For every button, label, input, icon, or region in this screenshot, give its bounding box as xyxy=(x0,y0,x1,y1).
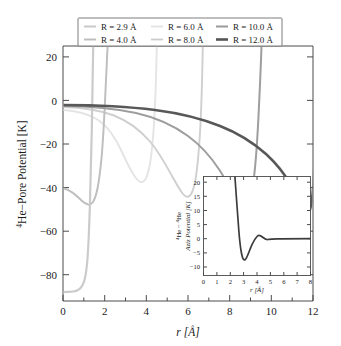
inset-y-tick-label: 15 xyxy=(193,193,200,200)
y-tick-label: −20 xyxy=(40,138,58,150)
y-tick-label: −60 xyxy=(40,225,58,237)
legend-label: R = 6.0 Å xyxy=(168,22,204,32)
inset-x-tick-label: 1 xyxy=(215,278,218,285)
x-axis-label: r [Å] xyxy=(176,325,199,338)
legend-label: R = 12.0 Å xyxy=(233,35,274,45)
legend-label: R = 2.9 Å xyxy=(101,22,137,32)
x-tick-label: 6 xyxy=(185,305,191,317)
inset-y-axis-label-line1: 4He − 4He xyxy=(175,212,183,240)
x-tick-labels: 0 2 4 6 8 10 12 xyxy=(60,305,318,317)
potential-figure: 0 2 4 6 8 10 12 20 0 −20 −40 xyxy=(0,0,341,346)
y-tick-label: −40 xyxy=(40,182,58,194)
y-tick-labels: 20 0 −20 −40 −60 −80 xyxy=(40,51,58,281)
inset-x-axis-label: r [Å] xyxy=(250,286,264,294)
y-axis-label: 4He−Pore Potential [K] xyxy=(15,120,28,227)
inset-ylabel-b: He xyxy=(175,212,182,220)
inset-y-axis-label-line2: Aziz Potential [K] xyxy=(184,201,192,252)
x-tick-label: 4 xyxy=(144,305,150,317)
y-axis-label-group: 4He−Pore Potential [K] xyxy=(15,120,28,227)
inset-ylabel-a: He − xyxy=(175,222,182,237)
y-tick-label: 0 xyxy=(52,95,58,107)
x-tick-label: 8 xyxy=(227,305,233,317)
x-tick-label: 12 xyxy=(308,305,319,317)
figure-container: 0 2 4 6 8 10 12 20 0 −20 −40 xyxy=(0,0,341,346)
inset-x-tick-labels: 0 1 2 3 4 5 6 7 8 xyxy=(202,278,313,285)
inset-y-tick-label: 10 xyxy=(193,207,200,214)
x-tick-label: 2 xyxy=(102,305,108,317)
legend-label: R = 10.0 Å xyxy=(233,22,274,32)
inset-y-tick-label: 20 xyxy=(193,179,200,186)
legend-label: R = 8.0 Å xyxy=(168,35,204,45)
inset-frame xyxy=(204,177,311,276)
y-tick-label: −80 xyxy=(40,269,58,281)
y-tick-label: 20 xyxy=(46,51,58,63)
legend: R = 2.9 Å R = 6.0 Å R = 10.0 Å R = 4.0 Å… xyxy=(78,18,282,46)
x-tick-label: 10 xyxy=(266,305,278,317)
legend-label: R = 4.0 Å xyxy=(101,35,137,45)
inset-x-tick-label: 2 xyxy=(229,278,232,285)
inset-y-tick-label: −5 xyxy=(193,249,201,256)
x-tick-label: 0 xyxy=(60,305,66,317)
inset-y-tick-label: −10 xyxy=(190,263,201,270)
y-axis-label-text: He−Pore Potential [K] xyxy=(16,120,28,224)
